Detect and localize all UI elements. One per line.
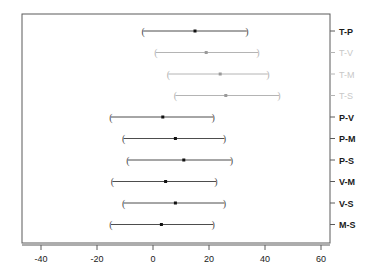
upper-bound-marker: ) [212, 219, 215, 231]
estimate-point [224, 94, 227, 97]
x-tick-label: -40 [34, 254, 47, 264]
upper-bound-marker: ) [256, 47, 259, 59]
y-axis-right: T-PT-VT-MT-SP-VP-MP-SV-MV-SM-S [330, 27, 356, 231]
interval-row: () [142, 26, 249, 38]
interval-row: () [122, 198, 226, 210]
upper-bound-marker: ) [230, 155, 233, 167]
x-tick-label: -20 [90, 254, 103, 264]
plot-frame [22, 14, 330, 243]
row-label-tm: T-M [339, 70, 355, 80]
row-label-tp: T-P [339, 27, 353, 37]
estimate-point [161, 116, 164, 119]
row-label-ms: M-S [339, 220, 356, 230]
row-label-ts: T-S [339, 91, 353, 101]
interval-row: () [122, 133, 226, 145]
interval-row: () [154, 47, 260, 59]
interval-row: () [109, 219, 215, 231]
interval-rows: ()()()()()()()()()() [109, 26, 280, 232]
estimate-point [194, 30, 197, 33]
estimate-point [164, 180, 167, 183]
upper-bound-marker: ) [223, 198, 226, 210]
upper-bound-marker: ) [245, 26, 248, 38]
upper-bound-marker: ) [212, 112, 215, 124]
row-label-vm: V-M [339, 177, 355, 187]
upper-bound-marker: ) [214, 176, 217, 188]
estimate-point [205, 51, 208, 54]
row-label-vs: V-S [339, 199, 354, 209]
interval-row: () [167, 69, 270, 81]
estimate-point [219, 73, 222, 76]
confidence-interval-plot: -40-200204060 T-PT-VT-MT-SP-VP-MP-SV-MV-… [0, 0, 367, 276]
x-tick-label: 40 [260, 254, 270, 264]
plot-border [22, 14, 330, 243]
x-tick-label: 60 [316, 254, 326, 264]
interval-row: () [111, 176, 218, 188]
interval-row: () [126, 155, 233, 167]
estimate-point [174, 202, 177, 205]
chart-container: -40-200204060 T-PT-VT-MT-SP-VP-MP-SV-MV-… [0, 0, 367, 276]
upper-bound-marker: ) [277, 90, 280, 102]
x-tick-label: 20 [204, 254, 214, 264]
row-label-pm: P-M [339, 134, 356, 144]
row-label-tv: T-V [339, 48, 353, 58]
x-axis: -40-200204060 [22, 245, 330, 264]
row-label-ps: P-S [339, 156, 354, 166]
upper-bound-marker: ) [266, 69, 269, 81]
estimate-point [174, 137, 177, 140]
interval-row: () [109, 112, 215, 124]
interval-row: () [174, 90, 281, 102]
estimate-point [182, 159, 185, 162]
x-tick-label: 0 [150, 254, 155, 264]
row-label-pv: P-V [339, 113, 354, 123]
upper-bound-marker: ) [223, 133, 226, 145]
estimate-point [160, 223, 163, 226]
